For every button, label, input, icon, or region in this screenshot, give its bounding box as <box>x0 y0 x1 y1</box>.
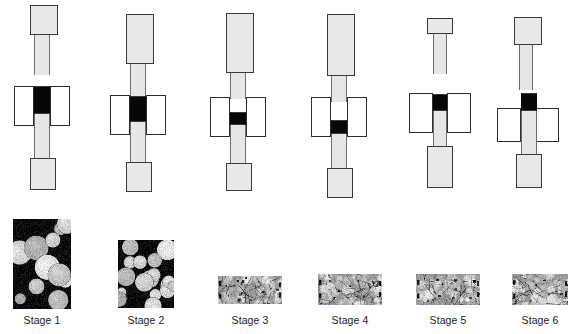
powder-compact-stage-2 <box>130 96 146 122</box>
lower-punch-rod-stage-5 <box>433 111 447 148</box>
stage-label-6: Stage 6 <box>512 314 568 326</box>
upper-punch-rod-stage-2 <box>130 62 146 96</box>
micro-stage-4-image <box>318 274 382 305</box>
powder-compact-stage-3 <box>230 112 246 125</box>
stage-label-4: Stage 4 <box>318 314 382 326</box>
lower-punch-rod-stage-6 <box>521 111 537 156</box>
powder-compact-stage-1 <box>34 86 50 114</box>
upper-punch-head-stage-5 <box>427 18 453 34</box>
upper-punch-rod-stage-1 <box>34 33 50 75</box>
stage-label-2: Stage 2 <box>118 314 174 326</box>
die-right-stage-2 <box>146 95 166 135</box>
micro-stage-5: Stage 5 <box>416 274 480 305</box>
upper-punch-head-stage-3 <box>226 13 254 73</box>
micro-stage-5-image <box>416 274 480 305</box>
die-left-stage-6 <box>497 108 521 142</box>
die-left-stage-5 <box>409 93 433 133</box>
upper-punch-head-stage-6 <box>514 17 542 45</box>
upper-punch-head-stage-4 <box>327 14 355 76</box>
die-left-stage-2 <box>110 95 130 135</box>
micro-stage-2-image <box>118 240 174 308</box>
lower-punch-head-stage-2 <box>126 162 152 192</box>
lower-punch-head-stage-6 <box>516 154 542 188</box>
schematic-stage-3 <box>200 0 300 210</box>
die-right-stage-3 <box>246 97 266 137</box>
sintering-stages-figure: Stage 1Stage 2Stage 3Stage 4Stage 5Stage… <box>0 0 573 334</box>
upper-punch-rod-stage-6 <box>519 43 533 90</box>
die-right-stage-4 <box>347 97 367 137</box>
lower-punch-head-stage-1 <box>30 158 56 190</box>
lower-punch-rod-stage-2 <box>130 122 146 164</box>
stage-label-3: Stage 3 <box>218 314 282 326</box>
die-left-stage-4 <box>311 97 331 137</box>
lower-punch-head-stage-4 <box>327 168 353 198</box>
micro-stage-1-image <box>13 219 71 309</box>
schematic-stage-5 <box>400 0 490 210</box>
micro-stage-6-image <box>512 274 568 305</box>
lower-punch-rod-stage-1 <box>34 114 50 160</box>
schematic-stage-1 <box>0 0 100 210</box>
micro-stage-3-image <box>218 276 282 304</box>
stage-label-1: Stage 1 <box>13 314 71 326</box>
schematic-stage-6 <box>490 0 573 210</box>
stage-label-5: Stage 5 <box>416 314 480 326</box>
upper-punch-rod-stage-5 <box>433 32 447 74</box>
upper-punch-head-stage-1 <box>30 5 58 35</box>
micro-stage-3: Stage 3 <box>218 276 282 304</box>
powder-compact-stage-5 <box>433 94 447 111</box>
micro-stage-2: Stage 2 <box>118 240 174 308</box>
micro-stage-4: Stage 4 <box>318 274 382 305</box>
upper-punch-head-stage-2 <box>126 14 154 64</box>
lower-punch-rod-stage-3 <box>230 125 246 165</box>
micro-stage-1: Stage 1 <box>13 219 71 309</box>
lower-punch-head-stage-3 <box>226 163 252 191</box>
die-right-stage-5 <box>447 93 471 133</box>
schematic-stage-2 <box>100 0 200 210</box>
lower-punch-rod-stage-4 <box>331 134 347 170</box>
powder-compact-stage-4 <box>331 120 347 134</box>
micro-stage-6: Stage 6 <box>512 274 568 305</box>
lower-punch-head-stage-5 <box>427 146 453 188</box>
die-left-stage-1 <box>14 86 34 126</box>
upper-punch-rod-stage-4 <box>331 74 347 102</box>
upper-punch-rod-stage-3 <box>230 71 246 99</box>
schematic-stage-4 <box>300 0 400 210</box>
die-right-stage-6 <box>535 108 559 142</box>
die-left-stage-3 <box>210 97 230 137</box>
die-right-stage-1 <box>50 86 70 126</box>
powder-compact-stage-6 <box>521 93 537 111</box>
